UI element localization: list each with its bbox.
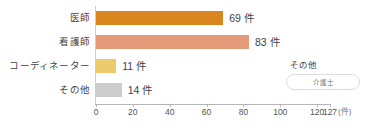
category-label: 看護師: [0, 37, 90, 47]
tick-label: 80: [239, 108, 248, 117]
tick-label: 100: [273, 108, 287, 117]
bar-value-label: 83 件: [255, 37, 280, 48]
tick-label: 127: [323, 108, 337, 117]
bar-group: 11 件: [96, 59, 146, 73]
other-breakdown-item: 介護士: [286, 74, 360, 90]
bar: [96, 83, 122, 97]
tick-label: 40: [165, 108, 174, 117]
category-label: 医師: [0, 13, 90, 23]
x-axis-unit-label: (件): [338, 108, 351, 116]
category-label: コーディネーター: [0, 61, 90, 71]
table-row: 看護師83 件: [0, 30, 369, 54]
category-label: その他: [0, 85, 90, 95]
other-breakdown-callout: その他 介護士: [286, 61, 360, 90]
tick-label: 0: [94, 108, 99, 117]
bar-group: 69 件: [96, 11, 254, 25]
bar: [96, 35, 249, 49]
tick-label: 20: [128, 108, 137, 117]
bar-chart: 医師69 件看護師83 件コーディネーター11 件その他14 件 0204060…: [0, 0, 369, 133]
bar-group: 83 件: [96, 35, 280, 49]
other-breakdown-title: その他: [286, 61, 360, 70]
bar-value-label: 14 件: [128, 85, 153, 96]
bar-value-label: 11 件: [122, 61, 146, 72]
tick-label: 60: [202, 108, 211, 117]
table-row: 医師69 件: [0, 6, 369, 30]
bar-group: 14 件: [96, 83, 152, 97]
bar-value-label: 69 件: [229, 13, 254, 24]
bar: [96, 59, 116, 73]
x-axis-ticks: 020406080100120127: [0, 104, 369, 124]
bar: [96, 11, 223, 25]
